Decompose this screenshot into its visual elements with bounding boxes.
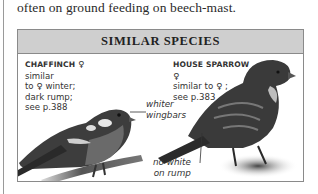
intro-text: often on ground feeding on beech-mast. (17, 0, 236, 16)
house-sparrow-name: HOUSE SPARROW (173, 60, 249, 69)
chaffinch-name: CHAFFINCH (25, 60, 75, 69)
chaffinch-desc-line: to ♀ winter; (25, 81, 75, 91)
annotation-rump: no white on rump (153, 157, 191, 178)
rump-pointer-line (198, 133, 204, 165)
chaffinch-page-ref: see p.388 (25, 102, 67, 112)
chaffinch-desc-line: dark rump; (25, 92, 73, 102)
house-sparrow-desc-line: similar to ♀ ; (173, 81, 228, 91)
annotation-wingbars: whiter wingbars (146, 99, 186, 120)
annotation-line: whiter (146, 99, 174, 109)
annotation-line: no white (153, 157, 191, 167)
female-symbol: ♀ (78, 59, 84, 69)
chaffinch-caption: CHAFFINCH ♀ similar to ♀ winter; dark ru… (25, 59, 115, 113)
similar-species-box: SIMILAR SPECIES (17, 29, 304, 182)
annotation-line: wingbars (146, 110, 186, 120)
female-symbol: ♀ (173, 71, 179, 81)
annotation-line: on rump (154, 168, 191, 178)
chaffinch-desc-line: similar (25, 71, 54, 81)
wingbars-pointer-line (130, 110, 148, 114)
house-sparrow-caption: HOUSE SPARROW ♀ similar to ♀ ; see p.383 (173, 59, 258, 102)
page-margin-rule (3, 0, 4, 194)
